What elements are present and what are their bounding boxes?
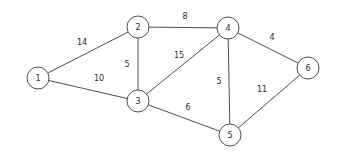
graph-node: 2 <box>127 16 149 38</box>
node-label: 6 <box>305 64 310 73</box>
graph-node: 6 <box>297 57 319 79</box>
graph-node: 4 <box>217 17 239 39</box>
graph-edge <box>238 33 298 63</box>
graph-edge <box>147 35 220 94</box>
graph-edge <box>238 75 299 128</box>
edge-weight-label: 10 <box>94 74 104 83</box>
node-label: 1 <box>35 74 40 83</box>
edge-weight-label: 6 <box>185 103 190 112</box>
edge-weight-label: 15 <box>174 51 184 60</box>
edge-weight-label: 5 <box>216 77 221 86</box>
edge-weight-label: 4 <box>269 33 274 42</box>
edge-labels-layer: 1410581565411 <box>77 12 275 112</box>
graph-edge <box>48 32 128 73</box>
node-label: 3 <box>135 97 140 106</box>
edge-weight-label: 8 <box>182 12 187 21</box>
edge-weight-label: 11 <box>257 85 267 94</box>
edge-weight-label: 14 <box>77 38 87 47</box>
edge-weight-label: 5 <box>124 60 129 69</box>
graph-node: 1 <box>27 67 49 89</box>
graph-node: 3 <box>127 90 149 112</box>
nodes-layer: 123456 <box>27 16 319 146</box>
graph-edge <box>149 27 217 28</box>
graph-node: 5 <box>219 124 241 146</box>
node-label: 2 <box>135 23 140 32</box>
node-label: 4 <box>225 24 230 33</box>
graph-edge <box>49 80 128 98</box>
graph-diagram: 1410581565411 123456 <box>0 0 340 156</box>
graph-canvas: 1410581565411 123456 <box>0 0 340 156</box>
graph-edge <box>228 39 230 124</box>
node-label: 5 <box>227 131 232 140</box>
graph-edge <box>148 105 219 131</box>
